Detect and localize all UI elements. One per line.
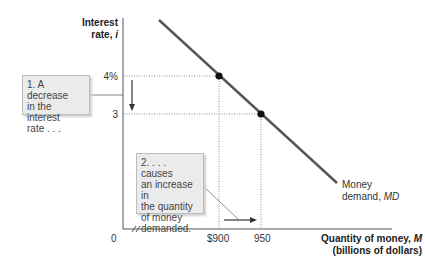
curve-label-line1: Money xyxy=(342,179,399,191)
y-axis-label-var: i xyxy=(115,29,118,40)
x-axis-label-text: Quantity of money, xyxy=(321,233,414,244)
x-axis-label: Quantity of money, M (billions of dollar… xyxy=(290,233,422,257)
curve-label-text: demand, xyxy=(342,191,384,202)
callout-leader-2 xyxy=(203,186,238,219)
x-tick-900: $900 xyxy=(207,233,229,245)
point-950-3 xyxy=(257,110,264,117)
right-arrow-icon xyxy=(224,217,257,223)
down-arrow-icon xyxy=(129,80,135,111)
origin-label: 0 xyxy=(111,233,117,245)
callout-1-line: rate . . . xyxy=(27,123,85,134)
y-axis-label-text: rate, xyxy=(91,29,115,40)
callout-increase-quantity: 2. . . . causes an increase in the quant… xyxy=(136,153,204,214)
callout-2-line: demanded. xyxy=(141,223,199,234)
callout-2-line: the quantity xyxy=(141,201,199,212)
y-axis-label-line1: Interest xyxy=(78,17,118,29)
callout-2-line: an increase in xyxy=(141,179,199,201)
x-axis-label-var: M xyxy=(414,233,422,244)
callout-decrease-rate: 1. A decrease in the interest rate . . . xyxy=(22,75,90,115)
x-tick-950: 950 xyxy=(254,233,271,245)
y-tick-3: 3 xyxy=(98,109,118,121)
y-axis-label-line2: rate, i xyxy=(78,29,118,41)
callout-1-line: 1. A decrease xyxy=(27,79,85,101)
y-tick-4: 4% xyxy=(98,71,118,83)
x-axis-label-line1: Quantity of money, M xyxy=(290,233,422,245)
curve-label: Money demand, MD xyxy=(342,179,399,203)
point-900-4 xyxy=(215,72,222,79)
callout-1-line: in the interest xyxy=(27,101,85,123)
curve-label-var: MD xyxy=(384,191,400,202)
callout-2-line: 2. . . . causes xyxy=(141,157,199,179)
callout-2-line: of money xyxy=(141,212,199,223)
x-axis-label-line2: (billions of dollars) xyxy=(290,245,422,257)
y-axis-label: Interest rate, i xyxy=(78,17,118,41)
curve-label-line2: demand, MD xyxy=(342,191,399,203)
